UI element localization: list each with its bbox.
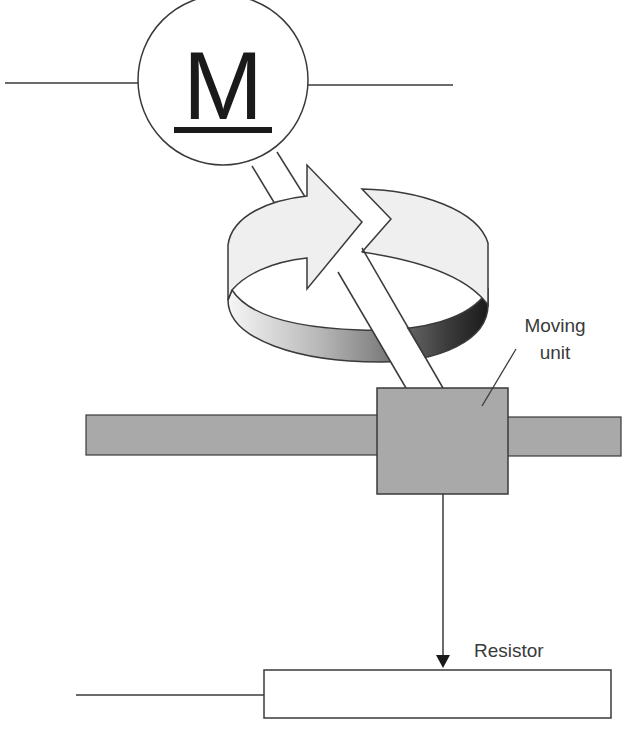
shaft-upper xyxy=(252,152,307,204)
diagram-canvas: M Moving unit Resistor xyxy=(0,0,626,734)
moving-unit-label-line2: unit xyxy=(540,342,571,363)
moving-unit-block xyxy=(377,388,508,494)
moving-unit-label-line1: Moving xyxy=(524,315,585,336)
motor-underline xyxy=(174,127,272,133)
resistor-body xyxy=(264,670,611,718)
slider-rail-right xyxy=(507,417,621,456)
motor-circle-icon: M xyxy=(138,0,308,165)
slider-rail-left xyxy=(86,415,378,455)
wiper-arrow-icon xyxy=(436,494,450,668)
motor-symbol: M xyxy=(183,32,263,139)
resistor-label: Resistor xyxy=(474,640,544,661)
